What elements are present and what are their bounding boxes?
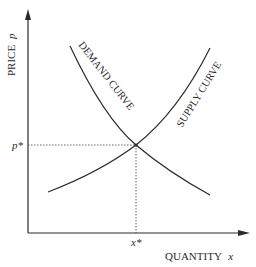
y-axis-label: PRICE p [5,33,17,76]
y-axis [25,9,31,233]
supply-curve-label: SUPPLY CURVE [174,60,223,129]
x-axis-label: QUANTITY x [165,250,233,262]
equilibrium-point [134,143,137,146]
x-axis-arrow-icon [238,230,250,236]
y-axis-arrow-icon [25,9,31,20]
supply-demand-diagram: PRICE p QUANTITY x DEMAND CURVE SUPPLY C… [0,0,256,267]
equilibrium-price-label: p* [11,139,24,151]
equilibrium-quantity-label: x* [130,236,142,248]
